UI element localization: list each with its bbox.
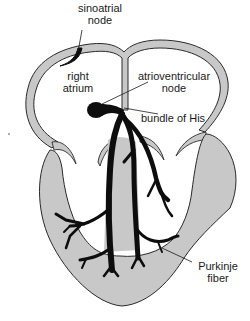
- label-purkinje-fiber: Purkinje fiber: [194, 260, 242, 284]
- label-right-atrium-line2: atrium: [58, 82, 98, 94]
- label-av-line1: atrioventricular: [134, 70, 214, 82]
- label-av-line2: node: [134, 82, 214, 94]
- stray-dot: [8, 133, 10, 135]
- label-purkinje-line1: Purkinje: [194, 260, 242, 272]
- label-right-atrium-line1: right: [58, 70, 98, 82]
- label-bundle-line1: bundle of His: [138, 112, 208, 124]
- atria-wall: [26, 40, 228, 148]
- label-atrioventricular-node: atrioventricular node: [134, 70, 214, 94]
- label-purkinje-line2: fiber: [194, 272, 242, 284]
- label-sinoatrial-line1: sinoatrial: [70, 2, 130, 14]
- label-bundle-of-his: bundle of His: [138, 112, 208, 124]
- label-sinoatrial-node: sinoatrial node: [70, 2, 130, 26]
- label-right-atrium: right atrium: [58, 70, 98, 94]
- label-sinoatrial-line2: node: [70, 14, 130, 26]
